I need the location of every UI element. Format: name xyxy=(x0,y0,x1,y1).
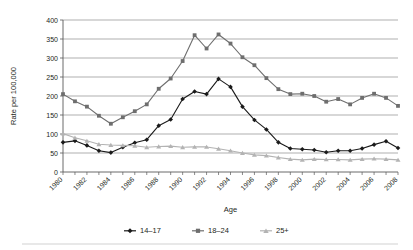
data-point xyxy=(288,92,292,96)
legend-marker xyxy=(128,228,133,233)
x-tick-label: 1992 xyxy=(191,176,207,192)
data-point xyxy=(300,92,304,96)
data-point xyxy=(229,42,233,46)
data-point xyxy=(336,148,341,153)
legend-label: 18–24 xyxy=(208,226,229,235)
data-point xyxy=(61,131,66,135)
x-tick-label: 1994 xyxy=(215,176,231,192)
x-tick-label: 2004 xyxy=(335,176,351,192)
x-tick-label: 1998 xyxy=(263,176,279,192)
legend: 14–1718–2425+ xyxy=(124,226,289,235)
x-tick-label: 2008 xyxy=(383,176,399,192)
data-point xyxy=(264,76,268,80)
data-point xyxy=(372,142,377,147)
data-point xyxy=(348,148,353,153)
data-point xyxy=(97,148,102,153)
data-point xyxy=(145,102,149,106)
chart-figure: 050100150200250300350400Rate per 100,000… xyxy=(0,0,413,250)
data-point xyxy=(396,104,400,108)
x-axis-title: Age xyxy=(224,205,237,214)
y-tick-label: 250 xyxy=(46,74,58,81)
data-point xyxy=(205,47,209,51)
data-point xyxy=(300,147,305,152)
data-point xyxy=(312,94,316,98)
data-point xyxy=(193,33,197,37)
x-tick-label: 1996 xyxy=(239,176,255,192)
data-point xyxy=(324,100,328,104)
series-line xyxy=(63,34,398,123)
data-point xyxy=(157,87,161,91)
x-tick-label: 1984 xyxy=(96,176,112,192)
data-point xyxy=(97,114,101,118)
legend-marker xyxy=(196,229,200,233)
legend-label: 25+ xyxy=(276,226,289,235)
y-tick-label: 50 xyxy=(50,150,58,157)
data-point xyxy=(133,109,137,113)
y-tick-label: 150 xyxy=(46,112,58,119)
series-14-17 xyxy=(61,77,401,155)
data-point xyxy=(109,122,113,126)
data-point xyxy=(168,117,173,122)
data-point xyxy=(61,92,65,96)
x-tick-labels: 1980198219841986198819901992199419961998… xyxy=(48,172,399,192)
data-point xyxy=(360,96,364,100)
y-tick-label: 100 xyxy=(46,131,58,138)
series-25- xyxy=(61,131,401,161)
series-18-24 xyxy=(61,33,400,126)
y-tick-label: 400 xyxy=(46,17,58,24)
data-point xyxy=(73,99,77,103)
data-point xyxy=(336,97,340,101)
data-point xyxy=(181,59,185,63)
x-tick-label: 1988 xyxy=(143,176,159,192)
data-point xyxy=(85,143,90,148)
data-point xyxy=(109,150,114,155)
data-point xyxy=(372,92,376,96)
x-tick-label: 2006 xyxy=(359,176,375,192)
data-point xyxy=(121,115,125,119)
data-point xyxy=(384,96,388,100)
series-line xyxy=(63,79,398,153)
y-tick-label: 350 xyxy=(46,36,58,43)
y-tick-label: 0 xyxy=(54,169,58,176)
legend-label: 14–17 xyxy=(140,226,161,235)
y-tick-labels: 050100150200250300350400 xyxy=(46,17,58,176)
data-point xyxy=(241,55,245,59)
x-tick-label: 1982 xyxy=(72,176,88,192)
x-tick-label: 2000 xyxy=(287,176,303,192)
data-point xyxy=(324,150,329,155)
y-tick-label: 300 xyxy=(46,55,58,62)
data-point xyxy=(288,146,293,151)
x-tick-label: 1980 xyxy=(48,176,64,192)
data-point xyxy=(169,77,173,81)
data-point xyxy=(217,33,221,37)
y-axis-title: Rate per 100,000 xyxy=(9,67,18,125)
x-tick-label: 2002 xyxy=(311,176,327,192)
data-point xyxy=(312,148,317,153)
data-point xyxy=(384,139,389,144)
data-point xyxy=(253,63,257,67)
series-line xyxy=(63,134,398,160)
y-tick-label: 200 xyxy=(46,93,58,100)
footer-divider xyxy=(22,243,398,245)
data-point xyxy=(276,87,280,91)
data-point xyxy=(396,146,401,151)
data-point xyxy=(85,105,89,109)
line-chart: 050100150200250300350400Rate per 100,000… xyxy=(0,0,413,250)
x-tick-label: 1986 xyxy=(120,176,136,192)
x-tick-label: 1990 xyxy=(167,176,183,192)
data-point xyxy=(61,140,66,145)
data-point xyxy=(348,102,352,106)
data-point xyxy=(360,146,365,151)
